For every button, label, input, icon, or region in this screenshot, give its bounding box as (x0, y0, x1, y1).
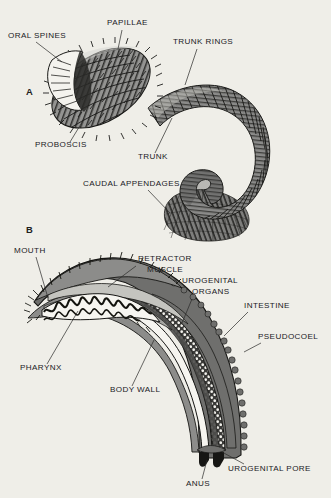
label-trunk: TRUNK (138, 152, 168, 161)
anatomical-plate: A ORAL SPINES PAPILLAE TRUNK RINGS PROBO… (0, 0, 331, 498)
label-mouth: MOUTH (14, 246, 46, 255)
label-intestine: INTESTINE (244, 301, 290, 310)
panel-letter-a: A (26, 86, 33, 97)
figure-canvas: A ORAL SPINES PAPILLAE TRUNK RINGS PROBO… (0, 0, 331, 498)
label-papillae: PAPILLAE (107, 18, 148, 27)
label-pharynx: PHARYNX (20, 363, 62, 372)
label-oral-spines: ORAL SPINES (8, 31, 66, 40)
label-retractor-muscle-line1: RETRACTOR (138, 254, 192, 263)
label-retractor-muscle-line2: MUSCLE (147, 265, 183, 274)
label-pseudocoel: PSEUDOCOEL (258, 332, 318, 341)
label-urogenital-organs-line1: UROGENITAL (182, 276, 238, 285)
label-proboscis: PROBOSCIS (35, 140, 87, 149)
label-anus: ANUS (186, 479, 210, 488)
label-body-wall: BODY WALL (110, 385, 160, 394)
label-urogenital-organs-line2: ORGANS (192, 287, 230, 296)
label-trunk-rings: TRUNK RINGS (173, 37, 233, 46)
label-caudal-appendages: CAUDAL APPENDAGES (83, 179, 180, 188)
panel-letter-b: B (26, 224, 33, 235)
label-urogenital-pore: UROGENITAL PORE (228, 464, 311, 473)
